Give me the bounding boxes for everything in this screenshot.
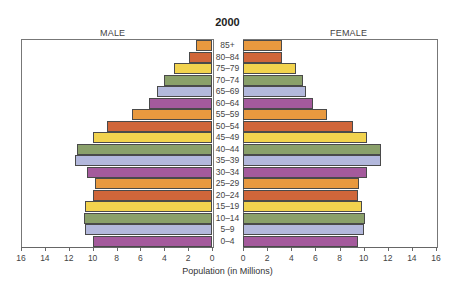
male-bar (93, 190, 212, 201)
x-tick (243, 247, 244, 251)
female-bar (243, 132, 367, 143)
age-group-label: 20–24 (212, 190, 243, 201)
x-tick-label: 4 (281, 253, 301, 263)
x-tick (436, 247, 437, 251)
age-group-label: 30–34 (212, 167, 243, 178)
x-tick (93, 247, 94, 251)
age-group-label: 70–74 (212, 75, 243, 86)
x-tick (267, 247, 268, 251)
x-axis-label: Population (in Millions) (0, 266, 455, 276)
x-tick (117, 247, 118, 251)
x-tick-label: 14 (35, 253, 55, 263)
female-bar (243, 63, 296, 74)
x-tick (188, 247, 189, 251)
x-tick (164, 247, 165, 251)
female-bar (243, 144, 381, 155)
female-bar (243, 86, 306, 97)
age-group-label: 55–59 (212, 109, 243, 120)
male-bar (132, 109, 212, 120)
female-bar (243, 98, 313, 109)
age-group-label: 40–44 (212, 144, 243, 155)
x-tick-label: 2 (178, 253, 198, 263)
x-tick-label: 8 (107, 253, 127, 263)
female-bar (243, 155, 381, 166)
x-tick (45, 247, 46, 251)
x-tick (291, 247, 292, 251)
female-bar (243, 40, 282, 51)
female-bar (243, 121, 353, 132)
male-bar (157, 86, 212, 97)
age-group-label: 0–4 (212, 236, 243, 247)
x-tick-label: 10 (354, 253, 374, 263)
x-tick-label: 12 (59, 253, 79, 263)
male-label: MALE (100, 28, 125, 38)
male-bar (93, 236, 212, 247)
male-bar (189, 52, 212, 63)
female-bar (243, 190, 358, 201)
x-tick-label: 6 (130, 253, 150, 263)
x-tick-label: 6 (305, 253, 325, 263)
x-tick (340, 247, 341, 251)
x-tick-label: 16 (426, 253, 446, 263)
age-group-label: 35–39 (212, 155, 243, 166)
female-label: FEMALE (330, 28, 367, 38)
male-bar (87, 167, 212, 178)
x-tick (140, 247, 141, 251)
x-tick-label: 14 (402, 253, 422, 263)
chart-title: 2000 (0, 16, 455, 28)
age-group-label: 65–69 (212, 86, 243, 97)
male-bar (75, 155, 212, 166)
female-bar (243, 236, 358, 247)
female-bar (243, 201, 362, 212)
age-group-label: 5–9 (212, 224, 243, 235)
female-bar (243, 224, 364, 235)
x-tick (388, 247, 389, 251)
male-bar (84, 213, 212, 224)
male-bar (85, 201, 212, 212)
x-tick-label: 0 (202, 253, 222, 263)
x-tick (315, 247, 316, 251)
x-tick (412, 247, 413, 251)
x-tick-label: 16 (11, 253, 31, 263)
age-group-label: 60–64 (212, 98, 243, 109)
male-bar (164, 75, 212, 86)
female-bar (243, 213, 365, 224)
male-bar (196, 40, 212, 51)
age-group-label: 45–49 (212, 132, 243, 143)
x-tick (212, 247, 213, 251)
x-tick (364, 247, 365, 251)
female-bar (243, 75, 303, 86)
male-bar (95, 178, 212, 189)
male-bar (85, 224, 212, 235)
male-bar (93, 132, 212, 143)
x-tick-label: 8 (330, 253, 350, 263)
male-bar (77, 144, 212, 155)
male-bar (107, 121, 212, 132)
age-group-label: 80–84 (212, 52, 243, 63)
x-tick-label: 0 (233, 253, 253, 263)
age-group-label: 50–54 (212, 121, 243, 132)
age-group-label: 25–29 (212, 178, 243, 189)
female-bar (243, 52, 282, 63)
age-group-label: 85+ (212, 40, 243, 51)
age-group-label: 75–79 (212, 63, 243, 74)
female-bar (243, 178, 359, 189)
x-tick-label: 12 (378, 253, 398, 263)
x-tick-label: 2 (257, 253, 277, 263)
x-tick (69, 247, 70, 251)
female-bar (243, 167, 367, 178)
age-group-label: 15–19 (212, 201, 243, 212)
x-tick (21, 247, 22, 251)
male-bar (174, 63, 212, 74)
x-tick-label: 4 (154, 253, 174, 263)
age-group-label: 10–14 (212, 213, 243, 224)
female-bar (243, 109, 327, 120)
male-bar (149, 98, 212, 109)
x-tick-label: 10 (83, 253, 103, 263)
